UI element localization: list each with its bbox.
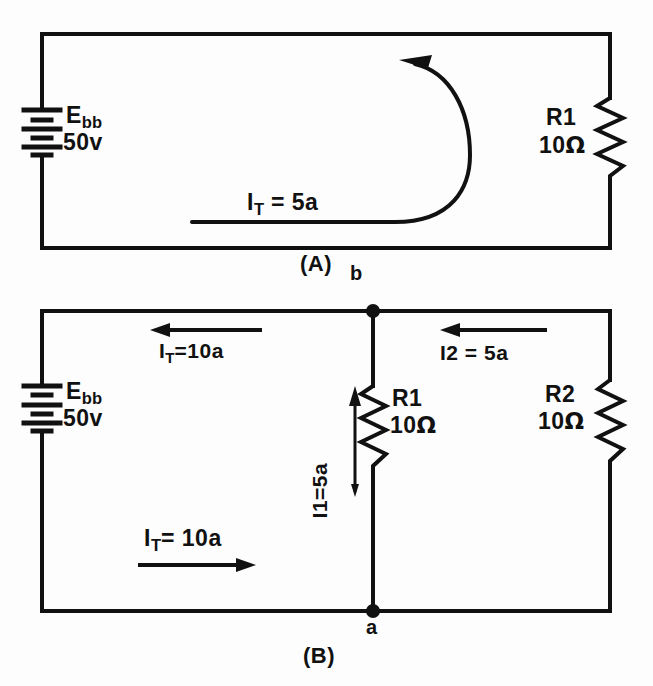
source-name-a: E: [66, 102, 82, 128]
source-label-b: Ebb: [66, 380, 102, 408]
straight-arrow-left-it-top-head: [150, 323, 170, 337]
curved-arrow-counterclockwise-a: [192, 64, 470, 222]
current-branch1-label: I1=5a: [309, 463, 330, 519]
source-value-a: 50v: [63, 131, 103, 154]
source-value-b: 50v: [63, 407, 103, 430]
battery-icon-b: [24, 386, 60, 431]
caption-b: (B): [303, 645, 335, 667]
resistor-zigzag-icon-a1: [597, 98, 623, 186]
current-total-top-label: IT=10a: [159, 340, 224, 365]
current-branch2-label: I2 = 5a: [440, 342, 508, 363]
resistor1-value-b: 10Ω: [390, 414, 437, 437]
circuit-drawing-layer: [0, 0, 653, 686]
straight-arrow-right-it-bottom-head: [236, 558, 256, 572]
node-label-b: b: [350, 263, 363, 283]
resistor-zigzag-icon-b2: [598, 380, 623, 474]
resistor-zigzag-icon-b1: [361, 386, 386, 478]
battery-icon-a: [24, 110, 60, 155]
straight-arrow-up-i1-head: [349, 386, 361, 406]
ohm-symbol-b1: Ω: [417, 412, 437, 438]
current-label-a: IT = 5a: [247, 191, 318, 219]
circuit-b-wire-frame: [42, 311, 610, 611]
junction-node-dot-top: [366, 304, 380, 318]
current-total-bottom-label: IT= 10a: [144, 527, 222, 555]
source-label-a: Ebb: [66, 104, 102, 132]
circuit-a-wire-frame: [42, 34, 610, 248]
caption-a: (A): [300, 253, 332, 275]
straight-arrow-left-i2-head: [440, 323, 460, 337]
straight-arrow-up-i1-tail: [351, 484, 359, 497]
resistor1-name-b: R1: [392, 387, 422, 410]
resistor2-value-b: 10Ω: [538, 410, 585, 433]
resistor-name-a: R1: [546, 106, 576, 129]
source-name-b: E: [66, 378, 82, 404]
circuit-figure: Ebb 50v R1 10Ω IT = 5a (A) b Ebb 50v IT=…: [0, 0, 653, 686]
node-label-a: a: [366, 617, 378, 637]
ohm-symbol-a: Ω: [566, 132, 586, 158]
resistor-value-a: 10Ω: [539, 134, 586, 157]
ohm-symbol-b2: Ω: [565, 408, 585, 434]
resistor2-name-b: R2: [545, 383, 575, 406]
